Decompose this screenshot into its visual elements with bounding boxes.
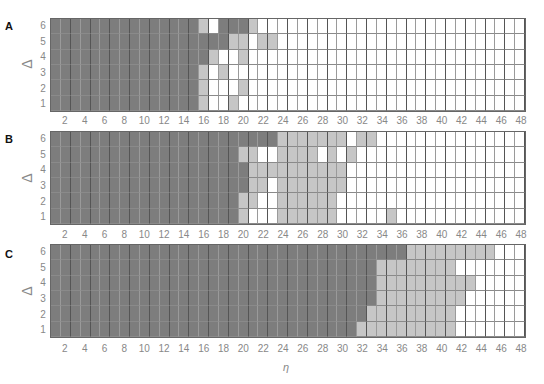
grid-cell [209,80,219,95]
grid-cell [298,276,308,291]
grid-cell [298,50,308,65]
grid-cell [446,132,456,147]
grid-cell [258,276,268,291]
grid-cell [160,19,170,34]
grid-cell [397,178,407,193]
x-tick-label: 18 [218,229,229,240]
grid-cell [318,178,328,193]
y-tick-label: 6 [38,246,48,257]
grid-cell [288,19,298,34]
grid-cell [219,50,229,65]
grid-cell [426,276,436,291]
grid-cell [495,245,505,260]
x-tick-label: 2 [62,115,68,126]
grid-cell [298,132,308,147]
grid-cell [308,163,318,178]
grid-cell [337,291,347,306]
x-tick-label: 22 [258,229,269,240]
grid-cell [446,19,456,34]
grid-cell [426,245,436,260]
x-tick-label: 26 [297,229,308,240]
grid-cell [100,163,110,178]
grid-cell [436,147,446,162]
grid-cell [436,209,446,224]
grid-cell [268,245,278,260]
grid-cell [51,65,61,80]
grid-cell [397,260,407,275]
grid-cell [199,147,209,162]
grid-cell [446,147,456,162]
grid-cell [170,322,180,337]
grid-cell [239,96,249,111]
grid-cell [466,322,476,337]
grid-cell [337,245,347,260]
grid-cell [239,245,249,260]
grid-cell [436,96,446,111]
grid-cell [140,50,150,65]
grid-cell [466,260,476,275]
grid-cell [179,193,189,208]
grid-cell [189,65,199,80]
x-tick-label: 20 [238,115,249,126]
y-axis-label: Δ [19,173,35,182]
grid-cell [298,34,308,49]
grid-cell [407,178,417,193]
grid-cell [495,163,505,178]
grid-cell [71,147,81,162]
grid-cell [318,147,328,162]
grid-cell [288,80,298,95]
grid-cell [71,306,81,321]
x-tick-label: 12 [158,229,169,240]
x-tick-label: 36 [396,229,407,240]
grid-cell [486,96,496,111]
grid-cell [268,276,278,291]
grid-cell [150,209,160,224]
grid-cell [426,80,436,95]
grid-cell [61,291,71,306]
grid-cell [476,34,486,49]
grid-cell [377,34,387,49]
grid-cell [51,306,61,321]
grid-cell [150,65,160,80]
grid-cell [258,132,268,147]
grid-cell [239,306,249,321]
grid-cell [377,19,387,34]
grid-cell [318,260,328,275]
grid-cell [209,209,219,224]
x-tick-label: 36 [396,115,407,126]
grid-cell [140,306,150,321]
x-tick-label: 6 [102,343,108,354]
grid-cell [100,50,110,65]
grid-cell [258,34,268,49]
grid-cell [416,50,426,65]
y-tick-label: 4 [38,51,48,62]
grid-cell [110,209,120,224]
grid-cell [100,19,110,34]
grid-cell [308,276,318,291]
grid-cell [347,80,357,95]
y-tick-label: 2 [38,309,48,320]
grid-cell [130,65,140,80]
grid-cell [288,209,298,224]
grid-cell [278,132,288,147]
grid-cell [170,19,180,34]
grid-cell [160,245,170,260]
grid-cell [357,178,367,193]
grid-cell [239,260,249,275]
grid-cell [288,50,298,65]
grid-cell [209,322,219,337]
x-tick-label: 32 [357,115,368,126]
grid-cell [308,245,318,260]
grid-cell [81,19,91,34]
grid-cell [476,96,486,111]
grid-cell [219,322,229,337]
grid-cell [436,322,446,337]
grid-cell [367,34,377,49]
grid-cell [239,34,249,49]
grid-cell [179,209,189,224]
grid-cell [505,65,515,80]
grid-cell [416,322,426,337]
grid-cell [456,260,466,275]
grid-cell [387,209,397,224]
grid-cell [436,80,446,95]
